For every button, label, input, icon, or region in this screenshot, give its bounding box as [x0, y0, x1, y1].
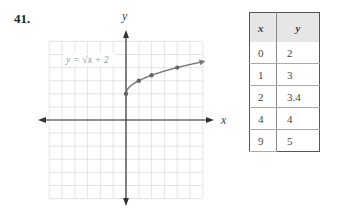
- cell-x: 0: [250, 42, 277, 64]
- table-row: 0 2: [250, 42, 320, 64]
- cell-y: 3: [276, 64, 319, 86]
- y-axis-down-arrow-icon: [123, 198, 129, 206]
- y-axis: [123, 30, 129, 206]
- table-row: 4 4: [250, 108, 320, 130]
- data-point: [175, 65, 179, 69]
- x-axis-right-arrow-icon: [206, 117, 214, 123]
- curve-arrow-icon: [199, 59, 205, 65]
- cell-y: 5: [276, 130, 319, 152]
- cell-x: 1: [250, 64, 277, 86]
- values-table: x y 0 2 1 3 2 3.4 4 4 9 5: [249, 12, 320, 152]
- x-axis-left-arrow-icon: [38, 117, 46, 123]
- y-axis-label: y: [121, 9, 128, 23]
- data-point: [149, 73, 153, 77]
- data-point: [124, 92, 128, 96]
- data-point: [137, 79, 141, 83]
- cell-x: 9: [250, 130, 277, 152]
- cell-y: 2: [276, 42, 319, 64]
- cell-x: 2: [250, 86, 277, 108]
- y-axis-up-arrow-icon: [123, 30, 129, 38]
- header-y: y: [276, 13, 319, 43]
- equation-label: y = √x + 2: [65, 54, 109, 65]
- cell-y: 3.4: [276, 86, 319, 108]
- table-row: 1 3: [250, 64, 320, 86]
- table-row: 2 3.4: [250, 86, 320, 108]
- x-axis-label: x: [220, 113, 227, 127]
- header-x: x: [250, 13, 277, 43]
- cell-x: 4: [250, 108, 277, 130]
- cell-y: 4: [276, 108, 319, 130]
- table-row: 9 5: [250, 130, 320, 152]
